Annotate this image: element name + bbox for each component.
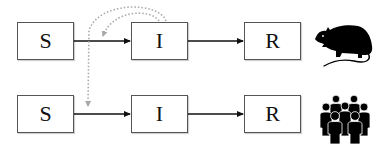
label-rodent-r: R xyxy=(265,28,280,54)
label-human-s: S xyxy=(39,101,51,127)
box-human-infected: I xyxy=(131,95,188,133)
sir-diagram: S I R S I R xyxy=(0,0,389,148)
label-rodent-i: I xyxy=(156,28,163,54)
label-human-i: I xyxy=(156,101,163,127)
box-rodent-recovered: R xyxy=(244,22,301,60)
box-rodent-infected: I xyxy=(131,22,188,60)
box-human-susceptible: S xyxy=(17,95,74,133)
label-rodent-s: S xyxy=(39,28,51,54)
people-group-icon xyxy=(320,94,372,144)
label-human-r: R xyxy=(265,101,280,127)
box-human-recovered: R xyxy=(244,95,301,133)
box-rodent-susceptible: S xyxy=(17,22,74,60)
rat-icon xyxy=(312,20,376,68)
